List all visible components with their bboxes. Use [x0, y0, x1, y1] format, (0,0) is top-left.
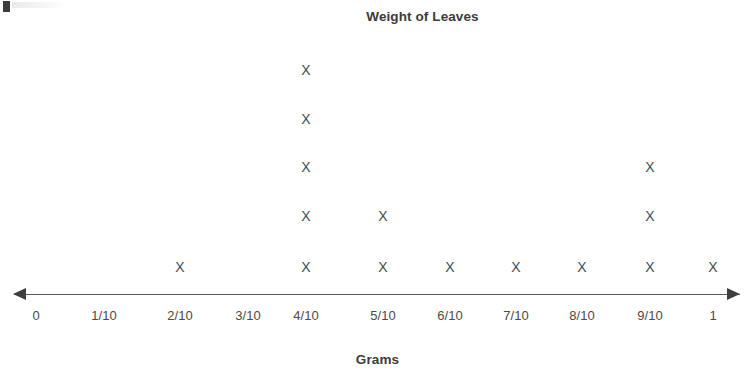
data-point-x-mark: X	[301, 63, 310, 77]
data-point-x-mark: X	[175, 260, 184, 274]
axis-tick-label: 4/10	[293, 308, 318, 323]
x-axis-title: Grams	[0, 352, 755, 367]
line-plot-chart: Weight of Leaves XXXXXXXXXXXXXXX 01/102/…	[0, 0, 756, 370]
arrow-right-icon	[727, 288, 740, 300]
data-point-x-mark: X	[378, 260, 387, 274]
axis-tick-label: 1	[709, 308, 716, 323]
data-point-x-mark: X	[301, 260, 310, 274]
axis-tick-label: 9/10	[637, 308, 662, 323]
axis-tick-label: 6/10	[437, 308, 462, 323]
axis-tick-label: 8/10	[569, 308, 594, 323]
axis-tick-label: 1/10	[91, 308, 116, 323]
number-line-axis	[14, 294, 740, 295]
axis-tick-label: 2/10	[167, 308, 192, 323]
data-point-x-mark: X	[511, 260, 520, 274]
axis-tick-label: 5/10	[370, 308, 395, 323]
data-point-x-mark: X	[445, 260, 454, 274]
data-point-x-mark: X	[301, 160, 310, 174]
data-point-x-mark: X	[645, 160, 654, 174]
data-point-x-mark: X	[301, 112, 310, 126]
arrow-left-icon	[13, 288, 26, 300]
data-point-x-mark: X	[708, 260, 717, 274]
data-point-x-mark: X	[577, 260, 586, 274]
chart-title: Weight of Leaves	[0, 9, 756, 24]
data-point-x-mark: X	[645, 260, 654, 274]
axis-tick-label: 7/10	[503, 308, 528, 323]
data-point-x-mark: X	[378, 209, 387, 223]
scan-artifact-smudge	[12, 2, 68, 8]
axis-tick-label: 0	[32, 308, 39, 323]
axis-tick-label: 3/10	[235, 308, 260, 323]
data-point-x-mark: X	[301, 209, 310, 223]
data-point-x-mark: X	[645, 209, 654, 223]
